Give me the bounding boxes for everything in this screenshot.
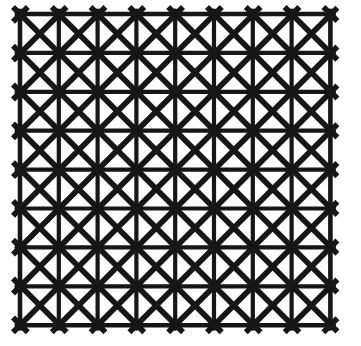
lattice-lines-group [13, 7, 337, 332]
lattice-image-canvas [0, 0, 361, 346]
lattice-pattern-svg [0, 0, 361, 346]
